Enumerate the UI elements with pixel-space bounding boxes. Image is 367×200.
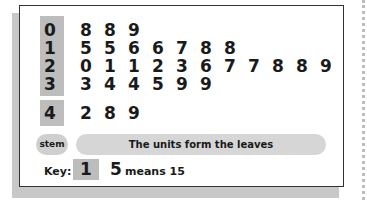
leaf-value: 8 [104, 104, 128, 122]
leaf-value: 2 [152, 57, 176, 75]
leaf-value: 4 [128, 75, 152, 93]
leaf-value: 2 [80, 104, 104, 122]
leaf-value: 6 [152, 39, 176, 57]
stem-leaf-row: 15566788 [44, 39, 248, 57]
stem-value: 4 [44, 104, 80, 122]
leaf-value: 4 [104, 75, 128, 93]
stem-value: 3 [44, 75, 80, 93]
stem-value: 0 [44, 21, 80, 39]
key-means-text: means 15 [125, 164, 185, 180]
leaf-value: 8 [224, 39, 248, 57]
dotted-divider [362, 0, 365, 200]
stem-value: 2 [44, 57, 80, 75]
leaf-value: 6 [128, 39, 152, 57]
key-leaf: 5 [110, 159, 122, 180]
leaf-value: 5 [80, 39, 104, 57]
leaf-value: 8 [296, 57, 320, 75]
leaf-value: 7 [176, 39, 200, 57]
leaf-value: 5 [152, 75, 176, 93]
leaf-value: 6 [200, 57, 224, 75]
stem-value: 1 [44, 39, 80, 57]
leaf-value: 8 [200, 39, 224, 57]
stem-label-pill: stem [36, 134, 68, 155]
leaf-value: 9 [320, 57, 344, 75]
leaf-value: 7 [224, 57, 248, 75]
stem-leaf-row: 3344599 [44, 75, 224, 93]
leaf-value: 8 [272, 57, 296, 75]
leaf-description-pill: The units form the leaves [76, 134, 326, 155]
stem-leaf-row: 4289 [44, 104, 152, 122]
leaf-value: 3 [80, 75, 104, 93]
leaf-value: 5 [104, 39, 128, 57]
stem-leaf-row: 201123677889 [44, 57, 344, 75]
leaf-value: 9 [176, 75, 200, 93]
leaf-value: 8 [104, 21, 128, 39]
stem-leaf-row: 0889 [44, 21, 152, 39]
leaf-value: 7 [248, 57, 272, 75]
leaf-value: 1 [104, 57, 128, 75]
leaf-value: 0 [80, 57, 104, 75]
key-label: Key: [44, 164, 71, 180]
leaf-value: 3 [176, 57, 200, 75]
leaf-value: 8 [80, 21, 104, 39]
key-stem: 1 [73, 159, 99, 180]
leaf-value: 9 [128, 104, 152, 122]
leaf-value: 9 [128, 21, 152, 39]
leaf-value: 1 [128, 57, 152, 75]
leaf-value: 9 [200, 75, 224, 93]
